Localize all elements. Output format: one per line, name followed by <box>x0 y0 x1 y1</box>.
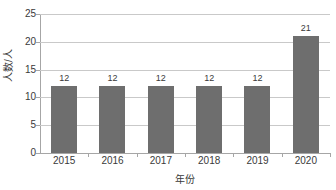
bar-chart: 人数/人 0510152025 121212121221 20152016201… <box>0 0 336 190</box>
y-axis-title: 人数/人 <box>0 36 15 96</box>
bar[interactable] <box>51 86 77 153</box>
x-axis-tick-labels: 201520162017201820192020 <box>40 155 330 169</box>
x-axis-tick-label: 2020 <box>295 155 317 167</box>
bar-value-label: 12 <box>107 73 117 83</box>
bar-slot: 12 <box>137 14 185 153</box>
bar-slot: 12 <box>88 14 136 153</box>
x-axis-tick-mark <box>330 153 331 157</box>
bar[interactable] <box>99 86 125 153</box>
y-axis-tick-label: 0 <box>14 148 36 158</box>
x-axis-tick-label: 2015 <box>53 155 75 167</box>
y-axis-tick-mark <box>36 42 40 43</box>
y-axis-tick-label: 20 <box>14 37 36 47</box>
x-axis-tick-label: 2017 <box>150 155 172 167</box>
bar-value-label: 21 <box>301 23 311 33</box>
bar-slot: 12 <box>185 14 233 153</box>
bar-value-label: 12 <box>252 73 262 83</box>
bar-value-label: 12 <box>59 73 69 83</box>
bar[interactable] <box>244 86 270 153</box>
y-axis-tick-mark <box>36 70 40 71</box>
bar-value-label: 12 <box>156 73 166 83</box>
bar-slot: 21 <box>282 14 330 153</box>
x-axis-tick-label: 2018 <box>198 155 220 167</box>
bar-slot: 12 <box>233 14 281 153</box>
y-axis-tick-label: 5 <box>14 120 36 130</box>
y-axis-tick-label: 10 <box>14 92 36 102</box>
bar[interactable] <box>148 86 174 153</box>
x-axis-tick-label: 2019 <box>246 155 268 167</box>
plot-area: 121212121221 <box>40 14 330 153</box>
bar[interactable] <box>293 36 319 153</box>
y-axis-tick-label: 25 <box>14 9 36 19</box>
x-axis-title: 年份 <box>40 171 330 186</box>
x-axis-tick-label: 2016 <box>101 155 123 167</box>
y-axis-tick-mark <box>36 153 40 154</box>
bar-series: 121212121221 <box>40 14 330 153</box>
y-axis-tick-mark <box>36 97 40 98</box>
y-axis-tick-labels: 0510152025 <box>14 9 36 154</box>
bar-slot: 12 <box>40 14 88 153</box>
y-axis-tick-label: 15 <box>14 65 36 75</box>
bar-value-label: 12 <box>204 73 214 83</box>
y-axis-tick-mark <box>36 125 40 126</box>
y-axis-tick-mark <box>36 14 40 15</box>
bar[interactable] <box>196 86 222 153</box>
